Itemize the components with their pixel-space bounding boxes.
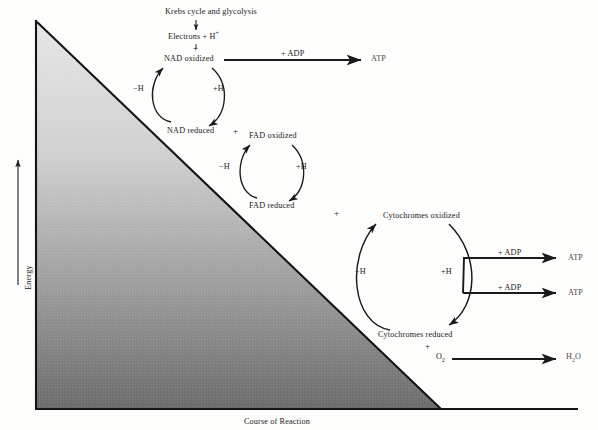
cytochrome-adp-label-2: + ADP xyxy=(498,284,521,292)
fad-minus-h-label: −H xyxy=(219,163,230,171)
cytochromes-reduced-label: Cytochromes reduced xyxy=(378,331,452,339)
nad-oxidized-label: NAD oxidized xyxy=(164,55,214,63)
nad-atp-label: ATP xyxy=(371,55,386,63)
diagram-canvas: Krebs cycle and glycolysis Electrons + H… xyxy=(0,0,598,430)
y-axis-label: Energy xyxy=(24,265,33,290)
cytochrome-o2-plus-sign: + xyxy=(425,342,430,351)
nad-fad-plus-sign: + xyxy=(233,127,238,136)
nad-cycle-arcs xyxy=(152,68,224,126)
cytochrome-atp-label-1: ATP xyxy=(568,254,583,262)
cytochrome-plus-h-label: +H xyxy=(441,268,452,276)
diagram-vector-layer xyxy=(0,0,598,430)
cytochrome-adp-label-1: + ADP xyxy=(498,249,521,257)
oxygen-label: O2 xyxy=(436,353,445,361)
cytochrome-minus-h-label: −H xyxy=(355,268,366,276)
nad-reduced-label: NAD reduced xyxy=(167,127,214,135)
fad-oxidized-label: FAD oxidized xyxy=(249,132,297,140)
cytochrome-cycle-arcs xyxy=(357,224,472,330)
nad-adp-label: + ADP xyxy=(281,50,304,58)
energy-shaded-triangle xyxy=(37,22,441,409)
electrons-label: Electrons + H+ xyxy=(168,33,219,41)
nad-minus-h-label: −H xyxy=(133,85,144,93)
water-label: H2O xyxy=(566,353,581,361)
fad-reduced-label: FAD reduced xyxy=(249,202,294,210)
cytochrome-atp-label-2: ATP xyxy=(568,289,583,297)
cytochrome-plus-sign: + xyxy=(334,209,339,218)
fad-plus-h-label: +H xyxy=(296,163,307,171)
source-plus-sign: + xyxy=(193,44,198,53)
nad-plus-h-label: +H xyxy=(213,85,224,93)
x-axis-label: Course of Reaction xyxy=(244,418,310,426)
fad-cycle-arcs xyxy=(240,145,304,201)
cytochromes-oxidized-label: Cytochromes oxidized xyxy=(383,212,460,220)
krebs-source-label: Krebs cycle and glycolysis xyxy=(165,8,257,16)
